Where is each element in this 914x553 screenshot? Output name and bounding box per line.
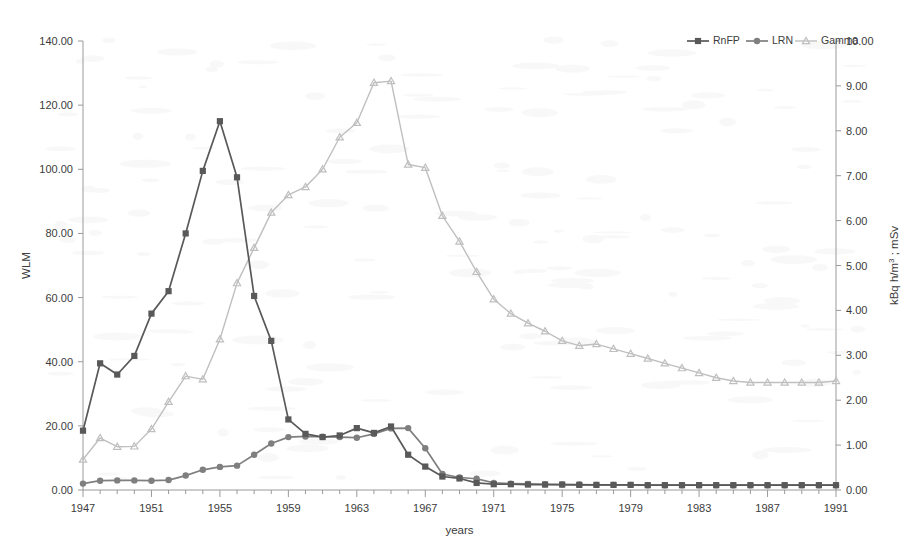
data-point-marker	[388, 423, 394, 429]
data-point-marker	[183, 230, 189, 236]
data-point-marker	[354, 425, 360, 431]
x-axis-tick-label: 1955	[208, 502, 232, 514]
x-axis-tick-label: 1979	[618, 502, 642, 514]
legend-label-lrn: LRN	[772, 34, 793, 46]
data-point-marker	[165, 288, 171, 294]
data-point-marker	[131, 477, 137, 483]
data-point-marker	[508, 481, 514, 487]
y-axis-right-tick-label: 1.00	[846, 439, 867, 451]
data-point-marker	[217, 464, 223, 470]
data-point-marker	[422, 463, 428, 469]
x-axis-tick-label: 1991	[824, 502, 848, 514]
data-point-marker	[148, 311, 154, 317]
y-axis-left-tick-label: 100.00	[39, 163, 73, 175]
x-axis-tick-label: 1983	[687, 502, 711, 514]
data-point-marker	[97, 477, 103, 483]
legend-label-gamma: Gamma	[821, 34, 859, 46]
data-point-marker	[234, 174, 240, 180]
data-point-marker	[80, 428, 86, 434]
y-axis-right-tick-label: 5.00	[846, 260, 867, 272]
data-point-marker	[200, 168, 206, 174]
y-axis-right-tick-label: 2.00	[846, 394, 867, 406]
data-point-marker	[285, 416, 291, 422]
data-point-marker	[782, 482, 788, 488]
paper-texture	[45, 36, 866, 480]
y-axis-right-tick-label: 6.00	[846, 215, 867, 227]
y-axis-right-tick-label: 7.00	[846, 170, 867, 182]
y-axis-right-title: kBq h/m3 ; mSv	[887, 226, 900, 305]
y-axis-left-tick-label: 20.00	[45, 420, 73, 432]
data-point-marker	[525, 481, 531, 487]
data-point-marker	[354, 435, 360, 441]
data-point-marker	[405, 452, 411, 458]
data-point-marker	[816, 482, 822, 488]
x-axis-tick-label: 1963	[345, 502, 369, 514]
data-point-marker	[456, 475, 462, 481]
y-axis-left-tick-label: 40.00	[45, 356, 73, 368]
data-point-marker	[268, 440, 274, 446]
chart-container: 0.0020.0040.0060.0080.00100.00120.00140.…	[0, 0, 914, 553]
data-point-marker	[730, 482, 736, 488]
data-point-marker	[764, 482, 770, 488]
legend-item-rnfp[interactable]: RnFP	[687, 34, 740, 46]
data-point-marker	[799, 482, 805, 488]
y-axis-right-tick-label: 4.00	[846, 304, 867, 316]
data-point-marker	[474, 480, 480, 486]
y-axis-left-title: WLM	[20, 252, 32, 279]
data-point-marker	[576, 482, 582, 488]
data-point-marker	[114, 371, 120, 377]
data-point-marker	[593, 482, 599, 488]
data-point-marker	[251, 293, 257, 299]
data-point-marker	[371, 430, 377, 436]
data-point-marker	[695, 38, 701, 44]
y-axis-left-tick-label: 140.00	[39, 35, 73, 47]
legend-label-rnfp: RnFP	[713, 34, 740, 46]
x-axis-tick-label: 1971	[481, 502, 505, 514]
data-point-marker	[302, 431, 308, 437]
data-point-marker	[285, 434, 291, 440]
data-point-marker	[491, 481, 497, 487]
data-point-marker	[405, 425, 411, 431]
data-point-marker	[713, 482, 719, 488]
data-point-marker	[234, 462, 240, 468]
data-point-marker	[131, 353, 137, 359]
data-point-marker	[80, 480, 86, 486]
data-point-marker	[747, 482, 753, 488]
data-point-marker	[542, 481, 548, 487]
y-axis-left-tick-label: 60.00	[45, 292, 73, 304]
x-axis-tick-label: 1987	[755, 502, 779, 514]
data-point-marker	[165, 477, 171, 483]
x-axis-tick-label: 1975	[550, 502, 574, 514]
y-axis-right-tick-label: 0.00	[846, 484, 867, 496]
data-point-marker	[268, 338, 274, 344]
data-point-marker	[559, 481, 565, 487]
data-point-marker	[645, 482, 651, 488]
legend-item-lrn[interactable]: LRN	[746, 34, 793, 46]
data-point-marker	[200, 467, 206, 473]
data-point-marker	[610, 482, 616, 488]
data-point-marker	[319, 434, 325, 440]
y-axis-left-tick-label: 80.00	[45, 227, 73, 239]
data-point-marker	[679, 482, 685, 488]
data-point-marker	[628, 482, 634, 488]
data-point-marker	[251, 452, 257, 458]
y-axis-right-tick-label: 9.00	[846, 80, 867, 92]
x-axis-tick-label: 1947	[71, 502, 95, 514]
data-point-marker	[217, 118, 223, 124]
y-axis-right-tick-label: 3.00	[846, 349, 867, 361]
data-point-marker	[114, 477, 120, 483]
data-point-marker	[97, 360, 103, 366]
x-axis-title: years	[445, 524, 473, 536]
y-axis-left-tick-label: 0.00	[52, 484, 73, 496]
data-point-marker	[337, 432, 343, 438]
data-point-marker	[422, 445, 428, 451]
legend-item-gamma[interactable]: Gamma	[795, 34, 859, 46]
data-point-marker	[662, 482, 668, 488]
data-point-marker	[182, 472, 188, 478]
x-axis-tick-label: 1967	[413, 502, 437, 514]
x-axis-tick-label: 1951	[139, 502, 163, 514]
data-point-marker	[754, 38, 760, 44]
line-chart: 0.0020.0040.0060.0080.00100.00120.00140.…	[0, 0, 914, 553]
data-point-marker	[696, 482, 702, 488]
y-axis-right-tick-label: 8.00	[846, 125, 867, 137]
